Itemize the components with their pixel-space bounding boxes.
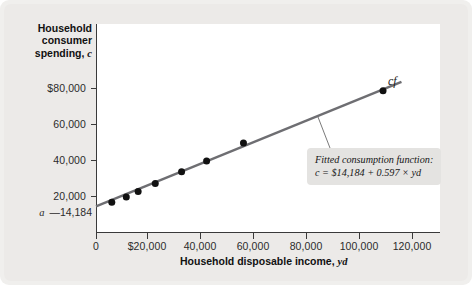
y-tick-40000 [91, 160, 97, 161]
y-tick-80000 [91, 88, 97, 89]
x-tick-0 [96, 233, 97, 239]
x-tick-80000 [306, 233, 307, 239]
intercept-symbol: a [39, 207, 44, 218]
plot-area [97, 24, 440, 232]
x-axis-title-symbol: yd [338, 256, 348, 267]
x-tick-40000 [200, 233, 201, 239]
fitted-function-note-line1: Fitted consumption function: [315, 153, 433, 166]
y-tick-label-40000: 40,000 [0, 154, 86, 166]
y-tick-60000 [91, 124, 97, 125]
x-tick-100000 [359, 233, 360, 239]
x-tick-20000 [147, 233, 148, 239]
x-axis-title: Household disposable income, yd [180, 255, 347, 267]
intercept-label: a—14,184 [18, 206, 92, 218]
y-axis-title: Household consumer spending, c [10, 22, 92, 60]
x-tick-label-0: 0 [76, 240, 116, 252]
figure-card: Household consumer spending, c $80,000 6… [0, 0, 472, 285]
x-tick-120000 [412, 233, 413, 239]
fit-line-label: cf [388, 74, 397, 89]
fitted-function-note-line2: c = $14,184 + 0.597 × yd [315, 166, 433, 179]
y-tick-label-20000: 20,000 [0, 190, 86, 202]
x-tick-label-80000: 80,000 [278, 240, 334, 252]
y-axis-line [96, 24, 97, 233]
intercept-value: —14,184 [49, 206, 92, 218]
y-tick-label-80000: $80,000 [0, 82, 86, 94]
x-tick-label-40000: 40,000 [172, 240, 228, 252]
fitted-function-note: Fitted consumption function: c = $14,184… [307, 148, 441, 185]
y-tick-20000 [91, 196, 97, 197]
y-tick-label-60000: 60,000 [0, 118, 86, 130]
x-tick-label-100000: 100,000 [329, 240, 389, 252]
y-axis-title-line1: Household [38, 22, 92, 34]
x-tick-label-60000: 60,000 [225, 240, 281, 252]
y-axis-title-line3: spending, [35, 47, 85, 59]
x-tick-label-120000: 120,000 [382, 240, 442, 252]
y-axis-title-line2: consumer [42, 34, 92, 46]
x-axis-title-text: Household disposable income, [180, 255, 335, 267]
x-tick-label-20000: $20,000 [117, 240, 177, 252]
x-tick-60000 [253, 233, 254, 239]
y-axis-title-symbol: c [87, 48, 92, 59]
